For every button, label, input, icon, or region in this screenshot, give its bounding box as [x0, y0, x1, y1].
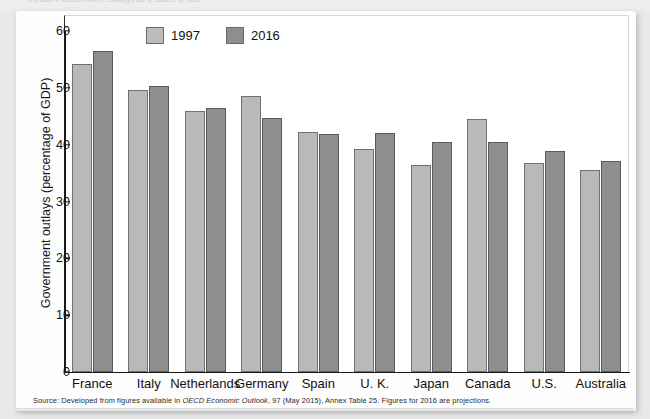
bar-japan-2016[interactable]	[432, 142, 452, 372]
source-publication: OECD Economic Outlook	[182, 396, 267, 405]
bar-netherlands-1997[interactable]	[185, 111, 205, 372]
y-tick-mark	[64, 258, 70, 259]
bar-italy-2016[interactable]	[149, 86, 169, 372]
legend: 1997 2016	[146, 27, 280, 44]
bar-france-2016[interactable]	[93, 51, 113, 372]
y-tick-mark	[64, 30, 70, 31]
bar-canada-1997[interactable]	[467, 119, 487, 372]
legend-item-2016[interactable]: 2016	[226, 27, 280, 44]
legend-item-1997[interactable]: 1997	[146, 27, 200, 44]
x-tick-label-japan: Japan	[414, 376, 449, 391]
x-tick-label-italy: Italy	[137, 376, 161, 391]
bar-spain-2016[interactable]	[319, 134, 339, 372]
legend-swatch-2016-icon	[226, 27, 244, 44]
bar-japan-1997[interactable]	[411, 165, 431, 372]
x-tick-label-canada: Canada	[465, 376, 511, 391]
x-tick-label-spain: Spain	[302, 376, 335, 391]
x-tick-label-netherlands: Netherlands	[170, 376, 240, 391]
source-suffix: , 97 (May 2015), Annex Table 25. Figures…	[268, 396, 491, 405]
bar-germany-2016[interactable]	[262, 118, 282, 372]
bar-us-2016[interactable]	[545, 151, 565, 372]
bar-chart: Government outlays (percentage of GDP) 0…	[0, 0, 650, 419]
bar-us-1997[interactable]	[524, 163, 544, 372]
y-tick-mark	[64, 144, 70, 145]
y-tick-mark	[64, 87, 70, 88]
x-tick-label-uk: U. K.	[360, 376, 389, 391]
source-note: Source: Developed from figures available…	[33, 396, 491, 405]
x-tick-label-germany: Germany	[235, 376, 288, 391]
x-tick-label-france: France	[72, 376, 112, 391]
y-tick-mark	[64, 314, 70, 315]
source-prefix: Source: Developed from figures available…	[33, 396, 182, 405]
bar-netherlands-2016[interactable]	[206, 108, 226, 372]
bar-italy-1997[interactable]	[128, 90, 148, 372]
bar-france-1997[interactable]	[72, 64, 92, 372]
y-tick-mark	[64, 371, 70, 372]
x-tick-label-australia: Australia	[575, 376, 626, 391]
bar-spain-1997[interactable]	[298, 132, 318, 372]
bar-germany-1997[interactable]	[241, 96, 261, 372]
bar-australia-2016[interactable]	[601, 161, 621, 372]
bar-australia-1997[interactable]	[580, 170, 600, 372]
y-tick-mark	[64, 201, 70, 202]
legend-label-1997: 1997	[171, 28, 200, 43]
legend-label-2016: 2016	[251, 28, 280, 43]
bar-canada-2016[interactable]	[488, 142, 508, 372]
legend-swatch-1997-icon	[146, 27, 164, 44]
bar-uk-1997[interactable]	[354, 149, 374, 372]
x-tick-label-us: U.S.	[532, 376, 557, 391]
bar-uk-2016[interactable]	[375, 133, 395, 372]
